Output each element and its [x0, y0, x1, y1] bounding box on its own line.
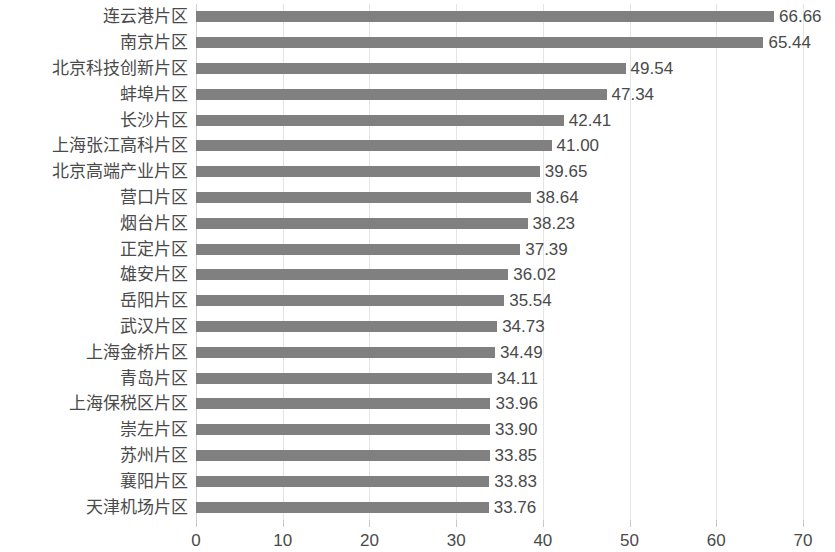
- bar-row: 34.73: [196, 314, 803, 340]
- category-axis-label: 烟台片区: [120, 215, 188, 232]
- category-row: 上海保税区片区: [0, 391, 188, 417]
- bar-value-label: 33.90: [495, 421, 538, 438]
- bar: [196, 476, 489, 487]
- x-tick-mark: [630, 520, 631, 527]
- bar: [196, 295, 504, 306]
- category-axis-label: 雄安片区: [120, 266, 188, 283]
- bar: [196, 89, 607, 100]
- bar-row: 33.83: [196, 468, 803, 494]
- category-axis-label: 苏州片区: [120, 447, 188, 464]
- bar-value-label: 33.83: [494, 473, 537, 490]
- x-tick-label: 30: [447, 532, 466, 549]
- category-row: 南京片区: [0, 30, 188, 56]
- bar-chart: 连云港片区南京片区北京科技创新片区蚌埠片区长沙片区上海张江高科片区北京高端产业片…: [0, 0, 835, 552]
- bar-row: 33.96: [196, 391, 803, 417]
- category-row: 长沙片区: [0, 107, 188, 133]
- category-axis-label: 长沙片区: [120, 112, 188, 129]
- category-axis-label: 上海金桥片区: [86, 344, 188, 361]
- x-tick-label: 40: [533, 532, 552, 549]
- bar: [196, 269, 508, 280]
- bar: [196, 37, 763, 48]
- x-tick-mark: [456, 520, 457, 527]
- bar-row: 49.54: [196, 56, 803, 82]
- x-axis: 010203040506070: [196, 520, 803, 552]
- bar: [196, 373, 492, 384]
- x-tick-mark: [369, 520, 370, 527]
- bar: [196, 398, 490, 409]
- x-tick-label: 60: [707, 532, 726, 549]
- bar: [196, 450, 490, 461]
- bar-row: 65.44: [196, 30, 803, 56]
- x-tick-mark: [196, 520, 197, 527]
- bar: [196, 218, 528, 229]
- bar: [196, 347, 495, 358]
- category-row: 北京科技创新片区: [0, 56, 188, 82]
- bar-value-label: 38.23: [533, 215, 576, 232]
- bar-value-label: 36.02: [513, 266, 556, 283]
- category-axis-label: 襄阳片区: [120, 473, 188, 490]
- bar-value-label: 47.34: [612, 86, 655, 103]
- category-row: 营口片区: [0, 185, 188, 211]
- plot-area: 66.6665.4449.5447.3442.4141.0039.6538.64…: [196, 4, 803, 520]
- bar: [196, 244, 520, 255]
- bar-row: 41.00: [196, 133, 803, 159]
- bar-value-label: 35.54: [509, 292, 552, 309]
- category-row: 连云港片区: [0, 4, 188, 30]
- category-axis-label: 北京高端产业片区: [52, 163, 188, 180]
- bar-series: 66.6665.4449.5447.3442.4141.0039.6538.64…: [196, 4, 803, 520]
- category-axis: 连云港片区南京片区北京科技创新片区蚌埠片区长沙片区上海张江高科片区北京高端产业片…: [0, 4, 188, 520]
- category-axis-label: 营口片区: [120, 189, 188, 206]
- x-tick-mark: [283, 520, 284, 527]
- bar-value-label: 49.54: [631, 60, 674, 77]
- bar-value-label: 33.85: [495, 447, 538, 464]
- bar-value-label: 34.73: [502, 318, 545, 335]
- bar-value-label: 34.49: [500, 344, 543, 361]
- category-axis-label: 连云港片区: [103, 8, 188, 25]
- x-tick-mark: [543, 520, 544, 527]
- category-row: 上海张江高科片区: [0, 133, 188, 159]
- bar: [196, 192, 531, 203]
- x-tick-label: 10: [273, 532, 292, 549]
- category-row: 蚌埠片区: [0, 81, 188, 107]
- bar-value-label: 41.00: [557, 137, 600, 154]
- category-axis-label: 蚌埠片区: [120, 86, 188, 103]
- x-tick-label: 20: [360, 532, 379, 549]
- bar-row: 33.90: [196, 417, 803, 443]
- bar-row: 38.64: [196, 185, 803, 211]
- x-tick-mark: [716, 520, 717, 527]
- x-tick-label: 0: [191, 532, 200, 549]
- bar-value-label: 66.66: [779, 8, 822, 25]
- bar-row: 39.65: [196, 159, 803, 185]
- bar-row: 47.34: [196, 81, 803, 107]
- category-row: 岳阳片区: [0, 288, 188, 314]
- bar-row: 42.41: [196, 107, 803, 133]
- category-axis-label: 南京片区: [120, 34, 188, 51]
- category-row: 崇左片区: [0, 417, 188, 443]
- bar: [196, 140, 552, 151]
- bar-row: 33.76: [196, 494, 803, 520]
- bar: [196, 11, 774, 22]
- category-row: 正定片区: [0, 236, 188, 262]
- bar-row: 66.66: [196, 4, 803, 30]
- category-axis-label: 上海保税区片区: [69, 395, 188, 412]
- category-axis-label: 岳阳片区: [120, 292, 188, 309]
- x-tick-label: 50: [620, 532, 639, 549]
- category-axis-label: 上海张江高科片区: [52, 137, 188, 154]
- bar-row: 33.85: [196, 443, 803, 469]
- category-axis-label: 崇左片区: [120, 421, 188, 438]
- category-axis-label: 青岛片区: [120, 370, 188, 387]
- category-axis-label: 正定片区: [120, 241, 188, 258]
- bar-row: 36.02: [196, 262, 803, 288]
- bar-value-label: 33.96: [495, 395, 538, 412]
- bar: [196, 166, 540, 177]
- category-row: 青岛片区: [0, 365, 188, 391]
- bar: [196, 424, 490, 435]
- gridline-70: [803, 4, 804, 520]
- category-row: 烟台片区: [0, 210, 188, 236]
- bar-row: 35.54: [196, 288, 803, 314]
- x-tick-label: 70: [794, 532, 813, 549]
- bar-value-label: 42.41: [569, 112, 612, 129]
- category-row: 武汉片区: [0, 314, 188, 340]
- category-row: 襄阳片区: [0, 468, 188, 494]
- bar: [196, 321, 497, 332]
